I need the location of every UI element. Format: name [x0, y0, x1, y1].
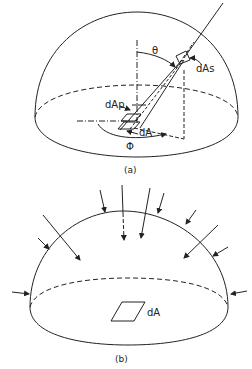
cone-edge-1 [120, 60, 182, 130]
phi-label: Φ [126, 141, 134, 152]
diagram-canvas: θ dAs dAp dA Φ (a) dA (b) [0, 0, 252, 369]
radiation-arrow [123, 213, 124, 240]
cone-center [130, 60, 183, 129]
dA-pointer [127, 131, 138, 134]
radiation-arrow [213, 247, 228, 256]
dAp-label: dAp [105, 99, 125, 110]
radiation-arrow [12, 292, 29, 294]
caption-b: (b) [115, 354, 128, 364]
hemisphere-dome-b [30, 211, 228, 307]
phi-arc [98, 124, 166, 138]
radiation-arrow [122, 185, 123, 213]
base-ellipse-back-b [30, 278, 228, 307]
caption-a: (a) [124, 165, 137, 175]
radiation-arrow [184, 225, 218, 258]
dA-label-a: dA [139, 127, 152, 138]
base-ellipse-front-b [30, 307, 228, 345]
radiation-arrow [100, 190, 105, 212]
radiation-arrow [43, 215, 80, 260]
dA-label-b: dA [147, 307, 160, 318]
radiation-arrow [186, 210, 196, 224]
figure-b [12, 185, 247, 345]
dAs-label: dAs [196, 63, 214, 74]
radiation-arrow [231, 291, 247, 294]
figure-a [35, 3, 238, 157]
cone-edge-2 [140, 60, 184, 128]
radiation-arrow [38, 238, 49, 249]
dA-patch-b [111, 302, 145, 321]
radiation-arrow [158, 193, 164, 213]
theta-label: θ [152, 45, 158, 56]
